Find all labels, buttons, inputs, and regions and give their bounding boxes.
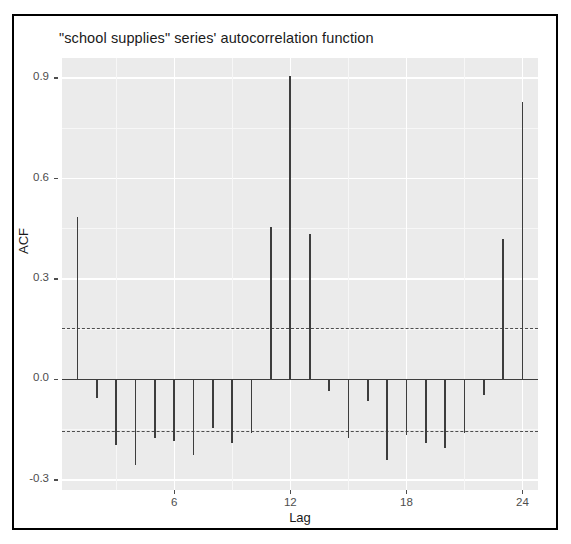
acf-bar — [212, 379, 214, 428]
acf-bar — [231, 379, 233, 443]
acf-bar — [289, 76, 291, 379]
acf-bar — [425, 379, 427, 443]
acf-bar — [154, 379, 156, 438]
y-tick-label: -0.3 — [29, 472, 49, 484]
zero-line — [62, 379, 538, 381]
acf-bar — [386, 379, 388, 459]
acf-bar — [483, 379, 485, 394]
acf-bar — [367, 379, 369, 401]
confidence-bound-line — [62, 431, 538, 432]
y-tick-label: 0.0 — [33, 371, 49, 383]
acf-bar — [77, 217, 79, 379]
confidence-bound-line — [62, 328, 538, 329]
y-axis: 0.90.60.30.0-0.3 — [14, 58, 58, 490]
acf-bar — [406, 379, 408, 434]
x-tick-label: 12 — [284, 496, 297, 508]
acf-bar — [444, 379, 446, 448]
x-tick-label: 6 — [171, 496, 177, 508]
acf-plot: "school supplies" series' autocorrelatio… — [14, 16, 556, 528]
acf-bar — [115, 379, 117, 444]
acf-bar — [270, 227, 272, 379]
gridline-minor-horizontal — [62, 228, 538, 229]
acf-bar — [193, 379, 195, 454]
y-tick-mark — [54, 278, 58, 279]
page-title: "school supplies" series' autocorrelatio… — [59, 30, 374, 46]
gridline-horizontal — [62, 178, 538, 179]
plot-panel — [62, 58, 538, 490]
acf-bar — [502, 239, 504, 380]
acf-bar — [348, 379, 350, 438]
acf-bar — [251, 379, 253, 433]
gridline-horizontal — [62, 479, 538, 480]
figure-frame: "school supplies" series' autocorrelatio… — [12, 14, 558, 530]
acf-bar — [328, 379, 330, 391]
gridline-horizontal — [62, 278, 538, 279]
acf-bar — [96, 379, 98, 397]
y-tick-mark — [54, 178, 58, 179]
acf-bar — [173, 379, 175, 441]
gridline-minor-horizontal — [62, 429, 538, 430]
x-tick-label: 18 — [400, 496, 413, 508]
x-tick-mark — [522, 490, 523, 494]
gridline-minor-horizontal — [62, 329, 538, 330]
y-tick-label: 0.3 — [33, 271, 49, 283]
x-tick-mark — [174, 490, 175, 494]
x-axis: 6121824 — [62, 490, 538, 512]
acf-bar — [522, 102, 524, 380]
y-axis-label: ACF — [16, 228, 31, 254]
y-tick-mark — [54, 77, 58, 78]
y-tick-mark — [54, 479, 58, 480]
x-tick-label: 24 — [516, 496, 529, 508]
acf-bar — [135, 379, 137, 464]
gridline-minor-horizontal — [62, 128, 538, 129]
x-tick-mark — [406, 490, 407, 494]
y-tick-label: 0.9 — [33, 70, 49, 82]
x-tick-mark — [290, 490, 291, 494]
acf-bar — [464, 379, 466, 433]
y-tick-label: 0.6 — [33, 171, 49, 183]
x-axis-label: Lag — [62, 510, 538, 525]
gridline-horizontal — [62, 77, 538, 78]
acf-bar — [309, 234, 311, 380]
y-tick-mark — [54, 379, 58, 380]
